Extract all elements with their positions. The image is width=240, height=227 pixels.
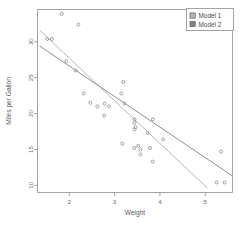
y-axis-title: Miles per Gallon: [5, 77, 13, 125]
legend-label: Model 1: [199, 12, 222, 19]
y-tick-label: 25: [27, 74, 34, 81]
plot-canvas: 2345 1015202530 Weight Miles per Gallon …: [0, 0, 240, 227]
scatter-plot-figure: 2345 1015202530 Weight Miles per Gallon …: [0, 0, 240, 227]
legend-label: Model 2: [199, 21, 222, 28]
x-tick-label: 2: [68, 198, 72, 205]
x-tick-label: 4: [158, 198, 162, 205]
x-axis-title: Weight: [125, 209, 146, 217]
y-tick-label: 30: [27, 38, 34, 45]
y-tick-label: 20: [27, 110, 34, 117]
legend-swatch: [190, 13, 195, 18]
x-tick-label: 5: [204, 198, 208, 205]
y-tick-label: 10: [27, 181, 34, 188]
legend-swatch: [190, 21, 195, 26]
y-tick-label: 15: [27, 145, 34, 152]
chart-legend: Model 1Model 2: [187, 9, 234, 31]
x-tick-label: 3: [113, 198, 117, 205]
